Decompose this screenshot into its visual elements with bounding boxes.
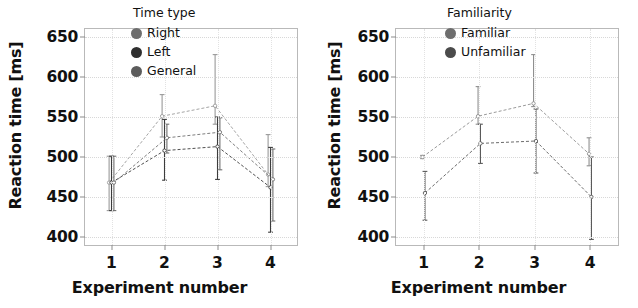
y-tick-label: 450 — [47, 188, 85, 206]
panel-familiarity: Reaction time [ms] Experiment number 400… — [319, 0, 638, 308]
y-gridline — [85, 197, 297, 198]
legend-time-type: Time type Right Left General — [131, 4, 196, 82]
x-tick-label: 1 — [106, 254, 117, 272]
legend-swatch-icon — [131, 28, 142, 39]
y-tick-label: 450 — [358, 188, 396, 206]
y-tick-label: 650 — [47, 28, 85, 46]
y-gridline — [85, 117, 297, 118]
x-gridline — [535, 29, 536, 245]
legend-item-left[interactable]: Left — [131, 43, 196, 61]
x-tick-mark — [534, 245, 535, 250]
x-tick-mark — [479, 245, 480, 250]
legend-label: General — [147, 62, 196, 80]
legend-swatch-icon — [445, 47, 456, 58]
x-tick-mark — [423, 245, 424, 250]
y-tick-label: 550 — [358, 108, 396, 126]
y-axis-label-right: Reaction time [ms] — [321, 0, 347, 250]
legend-title-right: Familiarity — [445, 4, 526, 22]
x-gridline — [424, 29, 425, 245]
legend-label: Right — [147, 24, 180, 42]
x-gridline — [112, 29, 113, 245]
series-general — [112, 118, 276, 221]
y-gridline — [396, 197, 618, 198]
y-gridline — [85, 157, 297, 158]
y-tick-label: 550 — [47, 108, 85, 126]
y-tick-label: 600 — [358, 68, 396, 86]
panel-time-type: Reaction time [ms] Experiment number 400… — [0, 0, 319, 308]
legend-swatch-icon — [131, 66, 142, 77]
series-left — [109, 117, 273, 232]
legend-swatch-icon — [445, 28, 456, 39]
series-line — [112, 147, 271, 188]
y-tick-label: 650 — [358, 28, 396, 46]
x-gridline — [590, 29, 591, 245]
legend-label: Familiar — [461, 24, 510, 42]
legend-item-general[interactable]: General — [131, 62, 196, 80]
x-gridline — [218, 29, 219, 245]
y-gridline — [85, 237, 297, 238]
x-tick-label: 4 — [585, 254, 596, 272]
legend-label: Unfamiliar — [461, 43, 526, 61]
data-point-marker — [112, 181, 115, 184]
x-tick-mark — [111, 245, 112, 250]
y-tick-label: 400 — [358, 228, 396, 246]
y-tick-label: 400 — [47, 228, 85, 246]
x-tick-mark — [164, 245, 165, 250]
legend-title-left: Time type — [131, 4, 196, 22]
data-point-marker — [213, 104, 216, 107]
x-axis-label-right: Experiment number — [319, 278, 638, 297]
y-gridline — [396, 117, 618, 118]
data-point-marker — [165, 136, 168, 139]
x-tick-mark — [590, 245, 591, 250]
data-point-marker — [271, 178, 274, 181]
y-gridline — [396, 77, 618, 78]
y-tick-label: 600 — [47, 68, 85, 86]
x-tick-label: 1 — [418, 254, 429, 272]
x-tick-label: 3 — [212, 254, 223, 272]
series-line — [425, 141, 592, 197]
legend-familiarity: Familiarity Familiar Unfamiliar — [445, 4, 526, 62]
y-tick-label: 500 — [358, 148, 396, 166]
legend-item-familiar[interactable]: Familiar — [445, 24, 526, 42]
data-point-marker — [218, 131, 221, 134]
x-axis-label-left: Experiment number — [0, 278, 319, 297]
y-axis-label-left: Reaction time [ms] — [2, 0, 28, 250]
y-gridline — [396, 157, 618, 158]
series-familiar — [420, 55, 591, 166]
legend-swatch-icon — [131, 47, 142, 58]
x-tick-mark — [270, 245, 271, 250]
x-gridline — [271, 29, 272, 245]
legend-item-right[interactable]: Right — [131, 24, 196, 42]
x-tick-label: 4 — [265, 254, 276, 272]
x-tick-label: 2 — [474, 254, 485, 272]
y-gridline — [396, 237, 618, 238]
y-tick-label: 500 — [47, 148, 85, 166]
series-unfamiliar — [423, 109, 594, 239]
series-line — [423, 103, 590, 157]
legend-item-unfamiliar[interactable]: Unfamiliar — [445, 43, 526, 61]
x-tick-label: 3 — [529, 254, 540, 272]
legend-label: Left — [147, 43, 171, 61]
x-tick-label: 2 — [159, 254, 170, 272]
reaction-time-figure: Reaction time [ms] Experiment number 400… — [0, 0, 638, 308]
x-tick-mark — [217, 245, 218, 250]
